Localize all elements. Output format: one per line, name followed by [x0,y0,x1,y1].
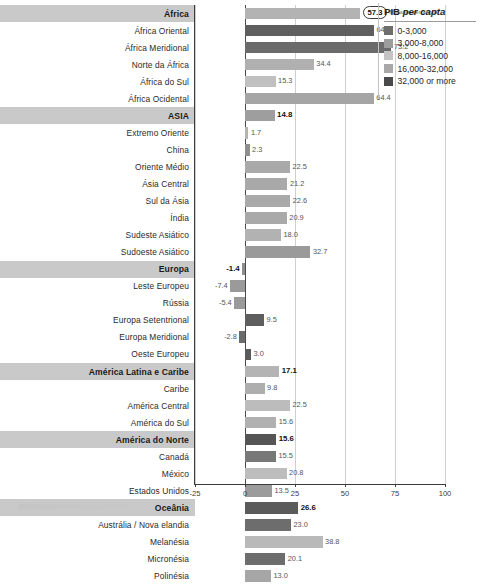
bar [245,127,248,139]
category-label-row: Melanésia [0,533,195,550]
bar [245,8,360,20]
bar-value-label: 20.9 [289,213,303,222]
category-label-row: Ásia Central [0,175,195,192]
legend-color-swatch [384,51,393,60]
bar-row: 1.7 [195,124,445,141]
region-group-label-row: ASIA [0,107,195,124]
bar-row: 14.8 [195,107,445,124]
category-label: África Ocidental [128,94,195,104]
x-axis-tick [295,484,296,487]
category-label: Polinésia [154,571,195,581]
bar-value-label: 1.7 [251,128,261,137]
category-label: África do Sul [140,77,195,87]
x-axis-tick [395,484,396,487]
category-label-row: Sul da Ásia [0,193,195,210]
bar [245,212,287,224]
legend-title-plain: PIB [384,6,403,17]
bar [245,570,271,582]
legend-item: 8,000-16,000 [383,50,484,63]
category-label-row: África do Sul [0,73,195,90]
category-label-row: Polinésia [0,568,195,585]
category-label: Índia [170,213,195,223]
category-label: África [164,9,195,19]
bar-row: 9.8 [195,380,445,397]
category-label-row: Europa Meridional [0,329,195,346]
bar-value-label: 9.8 [267,383,277,392]
category-label-row: América Central [0,397,195,414]
page-artifact [18,504,138,509]
category-label-row: Austrália / Nova elandia [0,516,195,533]
bar-row: -2.8 [195,329,445,346]
bar-value-label: 9.5 [267,315,277,324]
category-label: Canadá [159,452,195,462]
category-label-row: Sudoeste Asiático [0,244,195,261]
bar [245,502,298,514]
category-label-row: América do Sul [0,414,195,431]
bar-row: -5.4 [195,295,445,312]
x-axis-line [194,484,445,485]
bar-value-label: 22.5 [293,400,307,409]
region-group-label-row: África [0,5,195,22]
bar-value-label: 3.0 [254,349,264,358]
bar-value-label: 38.8 [325,537,339,546]
bar-value-label: 21.2 [290,179,304,188]
category-label-row: México [0,465,195,482]
bar [239,331,245,343]
bar-row: 9.5 [195,312,445,329]
bar-value-label: 34.4 [316,59,330,68]
category-label: Oriente Médio [135,162,195,172]
bar [245,366,279,378]
bar-row: 22.6 [195,193,445,210]
legend-item: 16,000-32,000 [383,62,484,75]
bar [245,110,275,122]
bar [245,349,251,361]
bar [245,178,287,190]
category-label-row: África Ocidental [0,90,195,107]
legend-separator-line [378,3,379,99]
category-label-row: Extremo Oriente [0,124,195,141]
bar-value-label: 17.1 [282,366,297,375]
bar-row: 20.9 [195,210,445,227]
x-axis-tick-label: 50 [341,489,349,498]
x-axis-tick [345,484,346,487]
bar [245,93,374,105]
category-label: Sul da Ásia [146,196,195,206]
bar-row: 22.5 [195,158,445,175]
bar-value-label: -5.4 [219,298,232,307]
legend-color-swatch [384,64,393,73]
region-group-label-row: América Latina e Caribe [0,363,195,380]
category-label: China [167,145,195,155]
category-label-row: África Meridional [0,39,195,56]
category-label-row: Sudeste Asiático [0,227,195,244]
bar-row: 20.1 [195,551,445,568]
bar-row: 38.8 [195,533,445,550]
x-axis-tick [195,484,196,487]
bar-value-label: 15.5 [279,451,293,460]
x-axis-tick-label: 100 [439,489,452,498]
category-label: Rússia [163,298,195,308]
category-label-row: Caribe [0,380,195,397]
category-label: Europa Meridional [119,332,195,342]
x-axis-tick [445,484,446,487]
bar [245,553,285,565]
region-group-label-row: América do Norte [0,431,195,448]
legend-color-swatch [384,26,393,35]
legend-title-italic: per capta [403,6,446,17]
category-label: África Meridional [125,43,195,53]
bar-value-label: 22.5 [293,162,307,171]
category-label: Caribe [164,384,195,394]
category-label: Oceânia [155,503,195,513]
bar [230,280,245,292]
bar-row: 20.8 [195,465,445,482]
category-label: Austrália / Nova elandia [98,520,195,530]
category-label-row: China [0,141,195,158]
bar-value-label: 20.1 [288,554,302,563]
legend-divider-rule [384,21,476,22]
bar-value-label: -7.4 [215,281,228,290]
bar [245,161,290,173]
bar-row: -7.4 [195,278,445,295]
category-label: Extremo Oriente [127,128,195,138]
bar-value-label: -1.4 [226,264,239,273]
category-label: Europa [159,264,195,274]
